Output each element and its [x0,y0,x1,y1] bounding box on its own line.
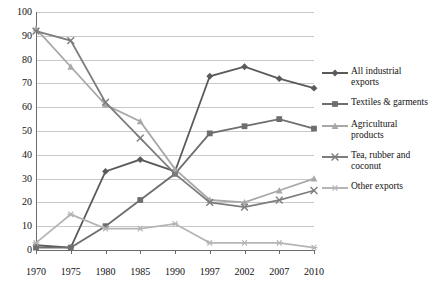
legend-label: Other exports [348,181,403,192]
series-layer [36,12,314,250]
data-point-marker [206,240,213,245]
y-axis-tick-label: 30 [0,174,32,184]
data-point-marker [102,168,109,175]
series-2 [33,116,317,250]
legend-item[interactable]: Textiles & garments [322,97,428,110]
x-axis-tick-mark [175,250,176,254]
legend-item[interactable]: All industrial exports [322,66,428,88]
data-point-marker [137,135,144,142]
legend-label: Agricultural products [348,119,428,141]
data-point-marker [276,116,282,122]
y-axis-tick-label: 40 [0,150,32,160]
data-point-marker [311,85,318,92]
x-axis-tick-label: 2010 [294,266,334,277]
legend-label: All industrial exports [348,66,428,88]
legend-marker-icon [322,120,348,132]
data-point-marker [207,130,213,136]
legend-marker-icon [322,151,348,163]
data-point-marker [311,175,318,181]
data-point-marker [276,240,283,245]
x-axis-tick-mark [140,250,141,254]
data-point-marker [68,245,74,251]
x-axis-tick-mark [36,250,37,254]
legend-marker-icon [322,67,348,79]
x-axis-tick-mark [245,250,246,254]
y-axis-tick-label: 60 [0,102,32,112]
x-axis-tick-mark [210,250,211,254]
y-axis-tick-label: 70 [0,78,32,88]
legend-label: Textiles & garments [348,97,428,108]
legend-marker-icon [322,98,348,110]
line-chart: 0102030405060708090100197019751980198519… [0,0,430,283]
y-axis-tick-label: 90 [0,31,32,41]
series-line [36,67,314,248]
legend-item[interactable]: Tea, rubber and coconut [322,150,428,172]
y-axis-tick-label: 50 [0,126,32,136]
x-axis-tick-mark [279,250,280,254]
series-1 [33,63,318,251]
y-axis-tick-label: 80 [0,55,32,65]
data-point-marker [276,75,283,82]
data-point-marker [137,156,144,163]
series-4 [33,28,318,211]
data-point-marker [172,221,179,226]
x-axis-tick-mark [314,250,315,254]
data-point-marker [206,73,213,80]
data-point-marker [67,212,74,217]
data-point-marker [242,123,248,129]
data-point-marker [137,197,143,203]
y-axis-tick-label: 0 [0,245,32,255]
series-line [36,31,314,207]
legend-item[interactable]: Other exports [322,181,428,194]
data-point-marker [241,63,248,70]
x-axis-tick-mark [106,250,107,254]
legend-marker-icon [322,182,348,194]
y-axis-tick-label: 100 [0,7,32,17]
plot-area: 0102030405060708090100197019751980198519… [36,12,314,250]
chart-legend: All industrial exportsTextiles & garment… [322,66,428,203]
legend-item[interactable]: Agricultural products [322,119,428,141]
legend-label: Tea, rubber and coconut [348,150,428,172]
series-3 [33,25,318,205]
data-point-marker [137,226,144,231]
data-point-marker [311,126,317,132]
y-axis-tick-label: 10 [0,221,32,231]
data-point-marker [241,240,248,245]
series-line [36,119,314,248]
y-axis-tick-label: 20 [0,197,32,207]
